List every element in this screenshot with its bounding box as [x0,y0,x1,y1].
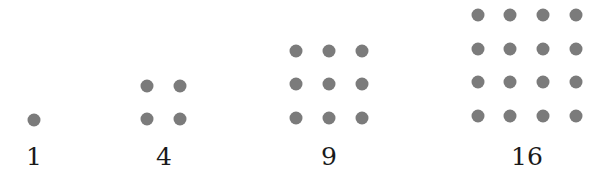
dot [504,110,517,123]
dot [472,43,485,56]
label-4: 4 [156,142,172,171]
dot [356,45,369,58]
dot [537,76,550,89]
dot [570,9,583,22]
dot [290,45,303,58]
dot [472,110,485,123]
dot [537,110,550,123]
dot [356,112,369,125]
dot [141,113,154,126]
square-numbers-diagram: 1 4 9 16 [0,0,608,175]
dot-array-1x1 [28,114,41,127]
dot [472,76,485,89]
group-4: 4 [141,80,187,172]
dot [570,110,583,123]
dot [504,76,517,89]
label-16: 16 [511,142,543,171]
dot [141,80,154,93]
dot [323,112,336,125]
dot-array-2x2 [141,80,187,126]
dot [174,113,187,126]
dot [537,43,550,56]
dot [174,80,187,93]
group-16: 16 [472,9,583,172]
dot [504,9,517,22]
dot-array-4x4 [472,9,583,123]
dot [323,45,336,58]
label-1: 1 [26,142,42,171]
dot [472,9,485,22]
dot [570,43,583,56]
label-9: 9 [321,142,337,171]
dot [504,43,517,56]
dot [323,78,336,91]
dot [537,9,550,22]
dot [290,112,303,125]
group-1: 1 [26,114,42,172]
dot-array-3x3 [290,45,369,125]
group-9: 9 [290,45,369,172]
dot [290,78,303,91]
dot [356,78,369,91]
dot [570,76,583,89]
dot [28,114,41,127]
